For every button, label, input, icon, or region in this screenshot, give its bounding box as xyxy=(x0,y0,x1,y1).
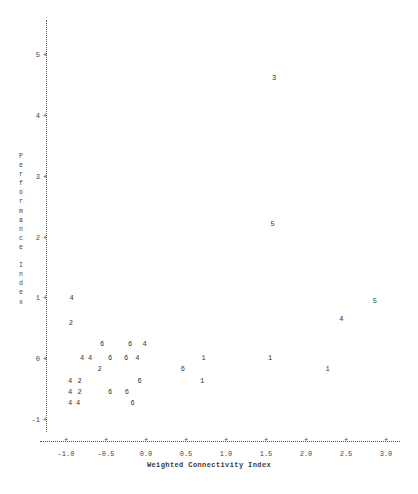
y-tick-mark: + xyxy=(43,113,47,120)
data-point: 4 xyxy=(88,355,92,362)
y-axis-label-char: I xyxy=(16,261,26,270)
x-tick-mark: + xyxy=(104,437,108,444)
data-point: 6 xyxy=(100,341,104,348)
y-axis-label-char: c xyxy=(16,234,26,243)
y-tick-label: 3 xyxy=(24,174,40,181)
y-axis-label-char xyxy=(16,252,26,261)
data-point: 2 xyxy=(78,389,82,396)
y-tick-label: 0 xyxy=(24,356,40,363)
x-tick-label: -1.0 xyxy=(53,450,79,458)
y-tick-mark: + xyxy=(43,174,47,181)
data-point: 6 xyxy=(128,341,132,348)
y-axis-label-char: m xyxy=(16,207,26,216)
y-axis-label-char: x xyxy=(16,298,26,307)
data-point: 6 xyxy=(138,378,142,385)
y-axis-label-char: e xyxy=(16,288,26,297)
data-point: 4 xyxy=(68,378,72,385)
y-axis-label-char: e xyxy=(16,243,26,252)
data-point: 2 xyxy=(78,378,82,385)
x-tick-mark: + xyxy=(264,437,268,444)
y-axis-label-char: a xyxy=(16,216,26,225)
x-tick-label: 3.0 xyxy=(373,450,399,458)
data-point: 2 xyxy=(98,366,102,373)
data-point: 3 xyxy=(272,75,276,82)
y-axis-label-char: r xyxy=(16,197,26,206)
data-point: 4 xyxy=(68,400,72,407)
y-axis-label: Performance Index xyxy=(16,152,26,307)
y-tick-mark: + xyxy=(43,295,47,302)
data-point: 6 xyxy=(125,389,129,396)
data-point: 6 xyxy=(108,355,112,362)
x-tick-mark: + xyxy=(344,437,348,444)
character-scatter-plot: +5+4+3+2+1+0+-1 +-1.0+-0.5+0.0+0.5+1.0+1… xyxy=(0,0,418,494)
y-axis-label-char: P xyxy=(16,152,26,161)
plot-screenshot: +5+4+3+2+1+0+-1 +-1.0+-0.5+0.0+0.5+1.0+1… xyxy=(0,0,418,494)
data-point: 4 xyxy=(339,316,343,323)
x-tick-label: 0.5 xyxy=(173,450,199,458)
y-axis-label-char: r xyxy=(16,170,26,179)
x-tick-label: 1.0 xyxy=(213,450,239,458)
data-point: 6 xyxy=(124,355,128,362)
data-point: 4 xyxy=(80,355,84,362)
x-tick-label: 2.0 xyxy=(293,450,319,458)
data-point: 4 xyxy=(142,341,146,348)
y-tick-label: 5 xyxy=(24,52,40,59)
x-tick-label: 2.5 xyxy=(333,450,359,458)
data-point: 6 xyxy=(130,400,134,407)
x-tick-mark: + xyxy=(144,437,148,444)
data-point: 1 xyxy=(326,366,330,373)
data-point: 1 xyxy=(200,378,204,385)
y-axis-label-char: f xyxy=(16,179,26,188)
data-point: 4 xyxy=(76,400,80,407)
y-axis-label-char: o xyxy=(16,188,26,197)
data-point: 2 xyxy=(69,320,73,327)
data-point: 6 xyxy=(108,389,112,396)
x-tick-label: -0.5 xyxy=(93,450,119,458)
data-point: 6 xyxy=(181,366,185,373)
y-axis-label-char: d xyxy=(16,279,26,288)
x-tick-mark: + xyxy=(184,437,188,444)
data-point: 5 xyxy=(270,221,274,228)
y-tick-mark: + xyxy=(43,356,47,363)
y-axis-label-char: n xyxy=(16,270,26,279)
data-point: 1 xyxy=(202,355,206,362)
x-tick-mark: + xyxy=(224,437,228,444)
x-tick-mark: + xyxy=(64,437,68,444)
x-tick-label: 1.5 xyxy=(253,450,279,458)
y-axis-label-char: n xyxy=(16,225,26,234)
x-axis-label: Weighted Connectivity Index xyxy=(0,461,418,469)
y-tick-label: 2 xyxy=(24,235,40,242)
y-tick-mark: + xyxy=(43,235,47,242)
data-point: 4 xyxy=(135,355,139,362)
y-axis-line xyxy=(46,20,48,432)
data-point: 4 xyxy=(70,295,74,302)
data-point: 4 xyxy=(68,389,72,396)
y-tick-label: 4 xyxy=(24,113,40,120)
data-point: 1 xyxy=(268,355,272,362)
y-tick-mark: + xyxy=(43,52,47,59)
data-point: 5 xyxy=(373,298,377,305)
y-tick-mark: + xyxy=(43,417,47,424)
y-tick-label: 1 xyxy=(24,295,40,302)
x-tick-mark: + xyxy=(384,437,388,444)
x-tick-mark: + xyxy=(304,437,308,444)
x-tick-label: 0.0 xyxy=(133,450,159,458)
y-tick-label: -1 xyxy=(24,417,40,424)
y-axis-label-char: e xyxy=(16,161,26,170)
